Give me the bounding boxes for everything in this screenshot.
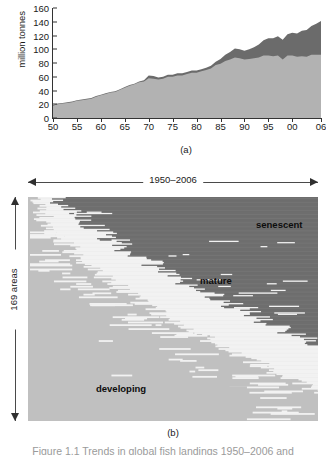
x-tick-label: 65 <box>119 121 130 132</box>
y-tick-label: 60 <box>38 71 53 82</box>
heatmap-cell-streak <box>128 314 137 316</box>
heatmap-svg <box>28 197 318 421</box>
heatmap-cell-streak <box>30 269 72 271</box>
heatmap-cell-streak <box>277 408 292 410</box>
heatmap-cell-streak <box>76 283 91 285</box>
heatmap-cell-streak <box>242 418 291 420</box>
heatmap-cell-streak <box>63 277 88 279</box>
heatmap-cell-streak <box>79 296 118 298</box>
y-tick-mark <box>53 35 57 36</box>
y-tick-mark <box>53 21 57 22</box>
heatmap-cell-streak <box>78 288 110 290</box>
arrow-up-icon <box>11 197 19 205</box>
heatmap-cell-streak <box>62 273 70 275</box>
heatmap-cell-streak <box>175 353 219 355</box>
figure-caption-clipped: Figure 1.1 Trends in global fish landing… <box>0 447 326 455</box>
heatmap-cell-streak <box>38 270 49 272</box>
heatmap-cell-streak <box>99 340 113 342</box>
heatmap-label-developing: developing <box>96 383 146 394</box>
heatmap-cell-streak <box>258 384 288 386</box>
heatmap-cell-streak <box>271 413 315 415</box>
heatmap-cell-streak <box>174 323 183 325</box>
heatmap-cell-streak <box>70 286 93 288</box>
heatmap-cell-streak <box>122 319 144 321</box>
y-tick-mark <box>53 63 57 64</box>
y-tick-mark <box>53 90 57 91</box>
arrow-down-icon <box>11 413 19 421</box>
y-tick-label: 100 <box>33 44 53 55</box>
heatmap-cell-streak <box>129 328 170 330</box>
y-tick-label: 140 <box>33 16 53 27</box>
area-chart-plot-area: 020406080100120140160 505560657075808590… <box>52 8 321 119</box>
heatmap-cell-streak <box>39 261 58 263</box>
y-tick-mark <box>53 8 57 9</box>
heatmap-cell-mature <box>314 392 318 394</box>
area-series-lower-band <box>53 55 321 118</box>
y-tick-mark <box>53 49 57 50</box>
arrow-right-icon <box>310 178 318 186</box>
heatmap-cell-streak <box>30 265 72 267</box>
y-tick-label: 160 <box>33 3 53 14</box>
heatmap-cell-streak <box>128 322 163 324</box>
x-tick-label: 00 <box>287 121 298 132</box>
x-tick-label: 55 <box>72 121 83 132</box>
time-span-label: 1950–2006 <box>143 174 203 185</box>
heatmap-cell-streak <box>160 336 188 338</box>
area-chart-svg <box>53 8 321 118</box>
heatmap-cell-streak <box>189 371 195 373</box>
panel-b-heatmap: 1950–2006 169 areas senescent mature dev… <box>0 165 326 455</box>
y-tick-label: 40 <box>38 85 53 96</box>
areas-count-label: 169 areas <box>7 250 20 330</box>
y-tick-label: 120 <box>33 30 53 41</box>
heatmap-cell-streak <box>92 304 115 306</box>
y-tick-mark <box>53 76 57 77</box>
x-tick-label: 80 <box>191 121 202 132</box>
heatmap-cell-streak <box>192 376 217 378</box>
x-tick-label: 70 <box>143 121 154 132</box>
heatmap-cell-streak <box>42 250 59 252</box>
x-tick-label: 06 <box>316 121 326 132</box>
panel-b-caption: (b) <box>28 427 318 438</box>
heatmap-cell-streak <box>60 288 70 290</box>
heatmap-cell-streak <box>232 377 258 379</box>
heatmap-cell-streak <box>30 254 61 256</box>
x-tick-label: 75 <box>167 121 178 132</box>
y-tick-label: 80 <box>38 58 53 69</box>
heatmap-cell-streak <box>111 375 132 377</box>
heatmap-plot-area: senescent mature developing <box>28 197 318 421</box>
x-tick-label: 50 <box>48 121 59 132</box>
y-axis-label: million tonnes <box>16 0 27 85</box>
heatmap-cell-streak <box>249 392 291 394</box>
heatmap-cell-streak <box>30 237 51 239</box>
x-tick-label: 90 <box>239 121 250 132</box>
panel-a-area-chart: million tonnes 020406080100120140160 505… <box>0 0 326 162</box>
heatmap-cell-streak <box>110 324 152 326</box>
heatmap-cell-streak <box>83 294 94 296</box>
heatmap-cell-streak <box>180 360 196 362</box>
heatmap-cell-streak <box>159 348 190 350</box>
x-tick-label: 95 <box>263 121 274 132</box>
heatmap-label-mature: mature <box>200 275 232 286</box>
arrow-left-icon <box>28 178 36 186</box>
time-span-arrow: 1950–2006 <box>28 175 318 189</box>
heatmap-cell-streak <box>156 324 162 326</box>
y-tick-label: 20 <box>38 99 53 110</box>
panel-a-caption: (a) <box>52 144 320 155</box>
heatmap-cell-streak <box>196 367 205 369</box>
heatmap-cell-streak <box>260 397 286 399</box>
figure-caption-text: Figure 1.1 Trends in global fish landing… <box>0 447 326 455</box>
x-tick-label: 85 <box>215 121 226 132</box>
heatmap-label-senescent: senescent <box>256 219 302 230</box>
y-tick-mark <box>53 104 57 105</box>
heatmap-cell-mature <box>302 388 318 390</box>
heatmap-cell-streak <box>198 369 218 371</box>
x-tick-label: 60 <box>96 121 107 132</box>
heatmap-cell-streak <box>54 281 86 283</box>
heatmap-cell-streak <box>92 292 111 294</box>
